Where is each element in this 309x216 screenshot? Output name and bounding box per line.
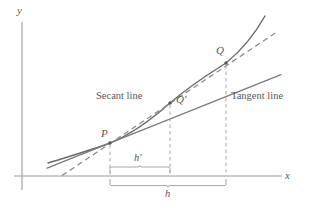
secant-line-label: Secant line [96,91,142,102]
point-label-p: P [101,128,108,139]
point-marker-q [224,61,227,64]
drop-lines-group [110,65,226,176]
tangent-line-label: Tangent line [231,91,283,102]
brace-h-prime [110,166,170,173]
brace-label-h-prime: h' [134,153,142,164]
point-marker-q-prime [168,101,171,104]
point-label-q-prime: Q' [176,94,186,105]
figure-canvas [0,0,309,216]
y-axis-label: y [17,5,22,16]
point-label-q: Q [216,45,224,56]
point-marker-p [108,141,111,144]
secant-tangent-figure: y x P Q' Q Secant line Tangent line h' h [0,0,309,216]
tangent-line [47,75,281,169]
x-axis-label: x [285,170,290,181]
brace-label-h: h [165,189,170,200]
brace-h [110,180,226,188]
